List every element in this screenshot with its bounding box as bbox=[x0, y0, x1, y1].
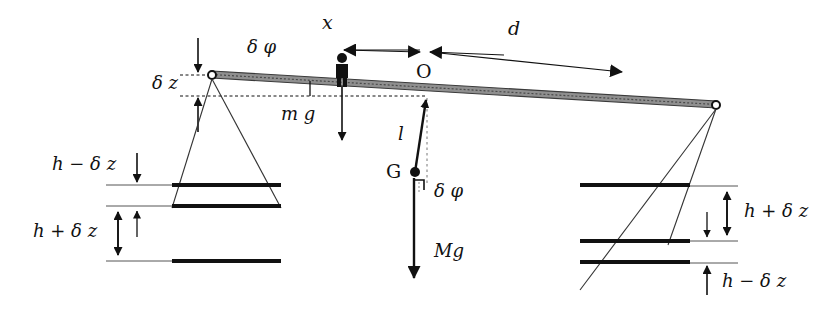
label-delta-phi-pendulum: δ φ bbox=[434, 182, 463, 200]
label-Mg: Mg bbox=[434, 242, 464, 260]
pendulum-bob-G bbox=[410, 167, 420, 177]
right-h-plus-dz-arrow bbox=[707, 192, 727, 237]
label-O: O bbox=[416, 62, 432, 81]
label-l: l bbox=[398, 125, 404, 143]
x-dimension-arrow bbox=[344, 50, 420, 52]
left-pan-strings bbox=[172, 79, 281, 208]
pendulum-rod-l-arrow bbox=[415, 100, 426, 172]
diagram-svg bbox=[0, 0, 840, 319]
right-pivot-joint bbox=[712, 101, 720, 109]
label-delta-z: δ z bbox=[152, 74, 178, 92]
left-pivot-joint bbox=[208, 71, 216, 79]
label-h-minus-dz-right: h − δ z bbox=[722, 272, 786, 290]
figure-canvas: δ φ δ z x d O m g l G δ φ Mg h − δ z h +… bbox=[0, 0, 840, 319]
left-h-plus-dz-arrow bbox=[118, 211, 137, 255]
left-pan-bars bbox=[172, 185, 281, 261]
right-reference-lines bbox=[690, 186, 738, 263]
label-h-minus-dz-left: h − δ z bbox=[52, 155, 116, 173]
d-dimension-arrow bbox=[430, 52, 622, 72]
left-reference-lines bbox=[106, 185, 172, 261]
label-d: d bbox=[508, 19, 520, 38]
label-mg: m g bbox=[281, 105, 315, 123]
right-pan-bars bbox=[580, 185, 690, 262]
label-delta-phi-beam: δ φ bbox=[247, 38, 276, 56]
label-G: G bbox=[386, 162, 401, 181]
label-h-plus-dz-left: h + δ z bbox=[33, 222, 97, 240]
label-x: x bbox=[322, 13, 333, 32]
label-h-plus-dz-right: h + δ z bbox=[744, 202, 808, 220]
